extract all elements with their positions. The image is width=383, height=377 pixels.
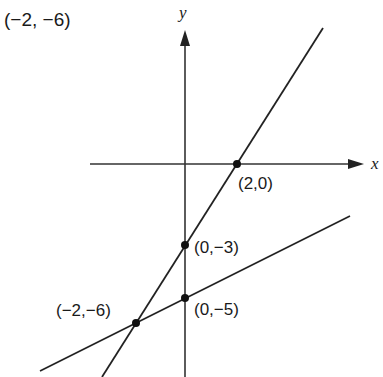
y-axis-label: y (177, 3, 187, 22)
x-axis-arrow-icon (348, 159, 364, 169)
point-label-0-neg3: (0,−3) (194, 238, 239, 257)
point-label-neg2-neg6: (−2,−6) (56, 301, 111, 320)
point-0-neg5 (181, 294, 189, 302)
point-2-0 (233, 160, 241, 168)
point-label-2-0: (2,0) (238, 174, 273, 193)
point-neg2-neg6 (132, 319, 140, 327)
point-label-0-neg5: (0,−5) (194, 300, 239, 319)
y-axis-arrow-icon (180, 30, 190, 46)
x-axis-label: x (370, 154, 379, 173)
title-label: (−2, −6) (4, 9, 71, 30)
point-0-neg3 (181, 241, 189, 249)
graph-diagram: (−2, −6) x y (2,0) (0,−3) (0,−5) (−2,−6) (0, 0, 383, 377)
